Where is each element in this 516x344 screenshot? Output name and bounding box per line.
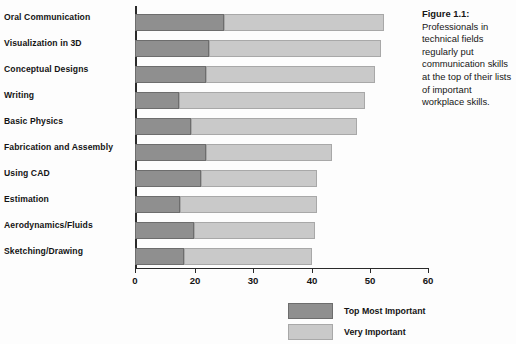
bar-segment-very-important <box>180 196 317 213</box>
category-label: Aerodynamics/Fluids <box>4 220 130 230</box>
x-axis-tick-mark <box>312 268 313 273</box>
bar-row <box>135 170 317 187</box>
bar-segment-top-most-important <box>135 40 209 57</box>
bar-segment-top-most-important <box>135 14 224 31</box>
bar-segment-very-important <box>206 144 332 161</box>
category-label: Oral Communication <box>4 12 130 22</box>
bar-segment-very-important <box>206 66 375 83</box>
x-axis-tick-mark <box>195 268 196 273</box>
bar-segment-very-important <box>201 170 317 187</box>
bar-segment-top-most-important <box>135 118 191 135</box>
figure-caption-text: Professionals in technical fields regula… <box>422 21 512 109</box>
category-label: Visualization in 3D <box>4 38 130 48</box>
bar-segment-top-most-important <box>135 144 206 161</box>
x-axis-tick-label: 30 <box>248 275 259 286</box>
category-label: Conceptual Designs <box>4 64 130 74</box>
bar-row <box>135 144 332 161</box>
bar-segment-top-most-important <box>135 196 180 213</box>
bar-segment-very-important <box>179 92 365 109</box>
bar-row <box>135 248 312 265</box>
bar-segment-top-most-important <box>135 222 194 239</box>
category-label: Estimation <box>4 194 130 204</box>
bar-segment-very-important <box>191 118 357 135</box>
legend-label-top-most-important: Top Most Important <box>344 306 425 316</box>
x-axis-tick-mark <box>253 268 254 273</box>
bar-segment-top-most-important <box>135 170 201 187</box>
figure-root: Figure 1.1: Professionals in technical f… <box>0 0 516 344</box>
bar-row <box>135 222 315 239</box>
category-label: Fabrication and Assembly <box>4 142 130 152</box>
legend-item-top-most-important: Top Most Important <box>288 303 420 320</box>
chart-area: Oral CommunicationVisualization in 3DCon… <box>0 0 420 344</box>
bar-segment-very-important <box>224 14 384 31</box>
bar-segment-top-most-important <box>135 248 184 265</box>
figure-caption: Figure 1.1: Professionals in technical f… <box>422 8 512 109</box>
category-label: Sketching/Drawing <box>4 246 130 256</box>
bar-segment-top-most-important <box>135 66 206 83</box>
bar-row <box>135 196 317 213</box>
x-axis-tick-label: 0 <box>132 275 137 286</box>
x-axis-line <box>135 268 428 269</box>
x-axis-tick-mark <box>370 268 371 273</box>
legend-swatch-top-most-important <box>288 303 333 319</box>
x-axis-tick-mark <box>135 268 136 273</box>
bar-row <box>135 14 384 31</box>
x-axis-tick-mark <box>428 268 429 273</box>
chart-legend: Top Most ImportantVery Important <box>288 303 420 344</box>
bar-row <box>135 40 381 57</box>
legend-label-very-important: Very Important <box>344 327 406 337</box>
bar-row <box>135 92 365 109</box>
bar-segment-very-important <box>194 222 315 239</box>
bar-segment-very-important <box>209 40 381 57</box>
x-axis-tick-label: 50 <box>365 275 376 286</box>
bar-segment-very-important <box>184 248 312 265</box>
x-axis-tick-label: 40 <box>307 275 318 286</box>
bar-segment-top-most-important <box>135 92 179 109</box>
category-label: Using CAD <box>4 168 130 178</box>
x-axis-tick-label: 60 <box>423 275 434 286</box>
x-axis-tick-label: 20 <box>190 275 201 286</box>
category-label: Writing <box>4 90 130 100</box>
legend-swatch-very-important <box>288 324 333 340</box>
bar-row <box>135 66 375 83</box>
plot-region: 02030405060 <box>135 6 428 268</box>
legend-item-very-important: Very Important <box>288 324 420 341</box>
category-label: Basic Physics <box>4 116 130 126</box>
figure-caption-label: Figure 1.1: <box>422 8 512 21</box>
bar-row <box>135 118 357 135</box>
